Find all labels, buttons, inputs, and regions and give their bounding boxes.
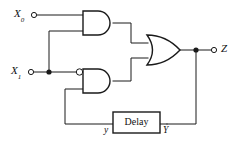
label-delay-output-y-upper: Y — [163, 126, 168, 136]
inversion-bubble-icon — [76, 69, 82, 75]
label-x1-base: X — [11, 64, 18, 76]
terminal-z-icon[interactable] — [211, 47, 216, 52]
label-x0-base: X — [14, 7, 21, 19]
junction-dot-z — [193, 47, 198, 52]
logic-circuit-diagram: X0 X1 Z y Y Delay — [0, 0, 242, 145]
wire-z-feedback-to-delay — [167, 50, 196, 124]
wire-and-top-to-or — [113, 23, 148, 43]
or-gate-body — [147, 35, 180, 65]
terminal-x1-icon[interactable] — [28, 69, 33, 74]
label-x0-subscript: 0 — [21, 16, 25, 24]
label-input-x0: X0 — [14, 8, 24, 22]
terminal-x0-icon[interactable] — [31, 12, 36, 17]
delay-box-label: Delay — [113, 117, 160, 127]
and-gate-bottom-body — [83, 69, 110, 93]
label-output-z: Z — [221, 43, 227, 54]
wire-and-bottom-to-or — [113, 58, 148, 81]
wire-delay-output-to-and-bottom — [65, 89, 113, 124]
and-gate-top-body — [83, 11, 110, 35]
label-delay-input-y-lower: y — [104, 126, 108, 136]
junction-dot-x1 — [46, 69, 51, 74]
wire-x1-branch-to-and-top — [49, 31, 83, 72]
label-input-x1: X1 — [11, 65, 21, 79]
label-x1-subscript: 1 — [18, 73, 22, 81]
